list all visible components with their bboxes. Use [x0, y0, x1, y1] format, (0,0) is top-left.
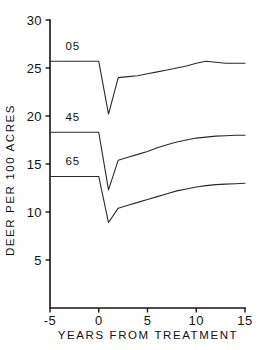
series-line-65	[50, 176, 245, 222]
y-tick-label: 20	[27, 109, 42, 124]
data-series-group	[50, 61, 245, 222]
series-labels-group: 054565	[66, 40, 80, 167]
x-tick-label: 10	[189, 313, 204, 328]
series-label-65: 65	[66, 155, 80, 167]
y-tick-label: 5	[34, 253, 42, 268]
series-label-45: 45	[66, 111, 80, 123]
series-label-05: 05	[66, 40, 80, 52]
series-line-05	[50, 61, 245, 114]
x-tick-label: 5	[144, 313, 152, 328]
x-axis-title: YEARS FROM TREATMENT	[58, 329, 238, 341]
axis-tick-labels: 51015202530-5051015	[27, 13, 253, 329]
line-chart: 51015202530-5051015 054565 YEARS FROM TR…	[0, 0, 263, 350]
y-tick-label: 30	[27, 13, 42, 28]
y-tick-label: 15	[27, 157, 42, 172]
x-tick-label: 0	[95, 313, 103, 328]
chart-figure: 51015202530-5051015 054565 YEARS FROM TR…	[0, 0, 263, 350]
x-tick-label: -5	[44, 313, 56, 328]
y-axis-title: DEER PER 100 ACRES	[4, 104, 16, 256]
y-tick-label: 10	[27, 205, 42, 220]
x-tick-label: 15	[237, 313, 252, 328]
y-tick-label: 25	[27, 61, 42, 76]
